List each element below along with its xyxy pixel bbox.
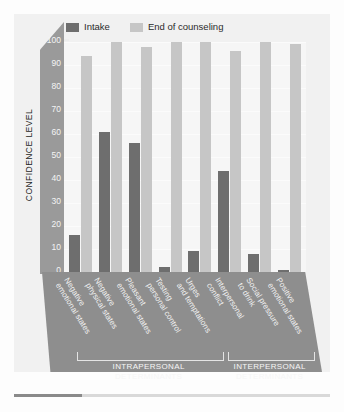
- group-bracket: [77, 352, 224, 361]
- bar-end-of-counseling: [81, 56, 92, 272]
- y-tick-dash-100: [64, 40, 69, 41]
- group-caption-line: DETERMINANTS: [69, 372, 228, 382]
- y-tick-60: 60: [52, 128, 61, 136]
- plot-area: [64, 42, 306, 272]
- y-tick-80: 80: [52, 82, 61, 90]
- chart-screenshot: Intake End of counseling CONFIDENCE LEVE…: [0, 0, 344, 412]
- legend-label-intake: Intake: [84, 22, 110, 32]
- y-axis-tick-labels: 0102030405060708090100: [40, 40, 64, 276]
- bar-end-of-counseling: [171, 42, 182, 272]
- group-caption-line: DETERMINANTS: [220, 372, 319, 382]
- y-axis-title: CONFIDENCE LEVEL: [24, 80, 34, 230]
- bar-end-of-counseling: [141, 47, 152, 272]
- bar-intake: [159, 267, 170, 272]
- y-tick-20: 20: [52, 220, 61, 228]
- legend-item-intake: Intake: [66, 22, 110, 32]
- bar-intake: [218, 171, 229, 272]
- bar-intake: [188, 251, 199, 272]
- bar-end-of-counseling: [290, 44, 301, 272]
- bar-groups: [64, 42, 306, 272]
- bar-end-of-counseling: [200, 42, 211, 272]
- legend-swatch-end-of-counseling: [130, 23, 143, 32]
- y-tick-100: 100: [47, 36, 61, 44]
- y-tick-50: 50: [52, 151, 61, 159]
- bar-intake: [248, 254, 259, 272]
- bar-group: [274, 42, 304, 272]
- group-caption-line: INTRAPERSONAL: [69, 362, 228, 372]
- bar-end-of-counseling: [230, 51, 241, 272]
- legend-label-end-of-counseling: End of counseling: [148, 22, 224, 32]
- bar-intake: [99, 132, 110, 272]
- bar-group: [66, 42, 96, 272]
- legend-swatch-intake: [66, 23, 79, 32]
- bar-intake: [129, 143, 140, 272]
- y-tick-70: 70: [52, 105, 61, 113]
- bar-intake: [278, 270, 289, 272]
- group-caption-line: INTERPERSONAL: [220, 362, 319, 372]
- group-caption: INTERPERSONALDETERMINANTS: [220, 362, 319, 382]
- y-tick-90: 90: [52, 59, 61, 67]
- bar-group: [155, 42, 185, 272]
- bar-intake: [69, 235, 80, 272]
- bar-group: [96, 42, 126, 272]
- bar-end-of-counseling: [111, 42, 122, 272]
- group-caption: INTRAPERSONALDETERMINANTS: [69, 362, 228, 382]
- legend-item-end-of-counseling: End of counseling: [130, 22, 224, 32]
- bar-end-of-counseling: [260, 42, 271, 272]
- y-tick-10: 10: [52, 243, 61, 251]
- bar-group: [245, 42, 275, 272]
- y-tick-40: 40: [52, 174, 61, 182]
- x-axis-category-labels: Negativeemotional statesNegativephysical…: [64, 276, 314, 356]
- y-tick-30: 30: [52, 197, 61, 205]
- bar-group: [215, 42, 245, 272]
- bar-group: [185, 42, 215, 272]
- chart-legend: Intake End of counseling: [66, 20, 223, 34]
- bottom-rule-accent: [14, 394, 82, 397]
- bar-group: [126, 42, 156, 272]
- group-bracket: [228, 352, 315, 361]
